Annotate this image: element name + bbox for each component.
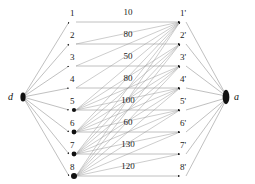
edge-weight-7: 130 [116,140,140,149]
edge-weight-4: 80 [118,74,138,83]
edge-weight-5: 100 [116,96,140,105]
node-label-6: 6 [70,119,75,128]
edges-to-sink-a [186,22,226,176]
node-label-5-prime: 5' [180,97,186,106]
edge-weight-3: 50 [118,52,138,61]
edge-weight-6: 60 [118,118,138,127]
node-label-1-prime: 1' [180,9,186,18]
node-a-marker [223,90,230,104]
node-8-marker [71,173,77,179]
node-label-7: 7 [70,141,75,150]
node-label-a: a [234,92,239,102]
node-label-6-prime: 6' [180,119,186,128]
node-d-marker [20,92,25,101]
node-label-2: 2 [70,31,75,40]
graph-figure: d a 1 2 3 4 5 6 7 8 1' 2' 3' 4' 5' 6' 7'… [0,0,255,184]
node-label-7-prime: 7' [180,141,186,150]
edge-weight-1: 10 [118,8,138,17]
node-5-marker [72,108,76,112]
node-7-marker [72,152,77,157]
node-label-4: 4 [70,75,75,84]
node-label-2-prime: 2' [180,31,186,40]
edges-from-source-d [23,22,69,176]
edge-weight-8: 120 [116,162,140,171]
node-label-5: 5 [70,97,75,106]
node-label-d: d [8,92,13,102]
node-label-3-prime: 3' [180,53,186,62]
node-label-3: 3 [70,53,75,62]
edge-weight-2: 80 [118,30,138,39]
node-label-8-prime: 8' [180,163,186,172]
graph-canvas [0,0,255,184]
node-label-8: 8 [70,163,75,172]
node-label-4-prime: 4' [180,75,186,84]
node-6-marker [72,130,77,135]
node-label-1: 1 [70,9,75,18]
